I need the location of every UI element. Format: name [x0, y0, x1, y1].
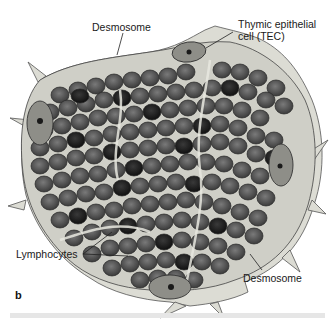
tec-label-line2: cell (TEC): [238, 30, 285, 42]
tec-label-line1: Thymic epithelial: [238, 18, 316, 30]
lymphocytes-label: Lymphocytes: [16, 248, 77, 260]
desmosome-bottom-label: Desmosome: [243, 272, 302, 284]
thymus-diagram: Desmosome Thymic epithelial cell (TEC) L…: [0, 0, 331, 323]
bottom-divider: [10, 313, 325, 318]
panel-letter: b: [15, 289, 22, 301]
desmosome-top-label: Desmosome: [92, 21, 151, 33]
